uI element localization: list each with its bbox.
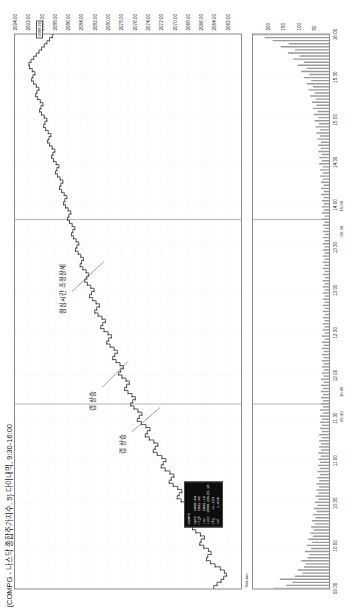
volume-axis-tick: 150 [281, 22, 286, 30]
price-axis-labels: 2062.002064.002066.002068.002070.002072.… [14, 1, 242, 31]
time-axis-tick: 12:30 [333, 327, 338, 339]
chart-stage: (COMPG - 나스닥 종합주가지수, 5} 다이내믹, 9:30-16:00… [0, 0, 350, 613]
time-axis-tick: 10:30 [333, 497, 338, 509]
price-axis-tick: 2072.00 [159, 13, 164, 30]
price-axis-tick: 2074.00 [145, 13, 150, 30]
price-axis-tick: 2076.00 [132, 13, 137, 30]
time-axis-tick: 16:00 [333, 28, 338, 40]
session-boundary-label: 15:00 [339, 201, 344, 211]
time-axis-tick: 14:00 [333, 199, 338, 211]
price-axis-tick: 2068.00 [185, 13, 190, 30]
volume-axis-tick: 50 [311, 25, 316, 30]
time-axis-tick: 10:00 [333, 540, 338, 552]
session-boundary-label: 09:30 [339, 411, 344, 421]
time-axis-tick: 11:00 [333, 455, 338, 466]
session-boundary-label: 15:00 [339, 386, 344, 396]
quote-box-title: COMPG [187, 484, 192, 524]
price-axis-tick: 2078.00 [119, 13, 124, 30]
volume-bars [253, 34, 329, 588]
volume-axis-tick: 100 [296, 22, 301, 30]
time-axis-labels: 09:3010:0010:3011:0011:3012:0012:3013:00… [331, 33, 347, 589]
quote-row-change [216, 484, 221, 497]
annotation-lunch-consolidation: 점심시간 조정장세 [58, 263, 67, 313]
volume-panel[interactable] [252, 33, 330, 589]
quote-box[interactable]: COMPG Open2065.04High2091.92Low2062.18La… [184, 481, 223, 527]
price-axis-tick: 2082.00 [92, 13, 97, 30]
last-price-tag: 2088.20 [36, 20, 43, 38]
price-axis-tick: 2088.00 [52, 13, 57, 30]
volume-axis-labels: 20015010050 [252, 1, 330, 31]
price-axis-tick: 2086.00 [66, 13, 71, 30]
quote-box-rows: Open2065.04High2091.92Low2062.18Last2088… [193, 484, 221, 524]
volume-axis-tick: 200 [266, 22, 271, 30]
time-axis-tick: 13:30 [333, 241, 338, 253]
annotation-gap-up-2: 갭 상승 [88, 390, 97, 410]
price-axis-tick: 2094.00 [13, 13, 18, 30]
price-axis-tick: 2084.00 [79, 13, 84, 30]
price-axis-tick: 2092.00 [26, 13, 31, 30]
annotation-gap-up: 갭 상승 [118, 433, 127, 453]
page-title: (COMPG - 나스닥 종합주가지수, 5} 다이내믹, 9:30-16:00 [3, 423, 14, 607]
time-axis-tick: 15:00 [333, 113, 338, 125]
price-axis-tick: 2062.00 [225, 13, 230, 30]
price-axis-tick: 2066.00 [199, 13, 204, 30]
time-axis-tick: 09:30 [333, 582, 338, 594]
time-axis-tick: 14:30 [333, 156, 338, 168]
session-boundary-label: 09:30 [339, 225, 344, 235]
time-axis-tick: 15:30 [333, 71, 338, 83]
quote-row-label: Vol [216, 509, 221, 524]
price-axis-tick: 2070.00 [172, 13, 177, 30]
time-axis-tick: 13:00 [333, 284, 338, 296]
price-axis-tick: 2064.00 [212, 13, 217, 30]
time-axis-tick: 12:00 [333, 369, 338, 381]
quote-box-row: Vol1.82B [216, 484, 221, 524]
quote-row-value: 1.82B [216, 497, 221, 510]
volume-panel-label: Volume [244, 573, 249, 587]
price-axis-tick: 2080.00 [106, 13, 111, 30]
time-axis-tick: 11:30 [333, 412, 338, 423]
chart-frame: (COMPG - 나스닥 종합주가지수, 5} 다이내믹, 9:30-16:00… [0, 0, 350, 613]
